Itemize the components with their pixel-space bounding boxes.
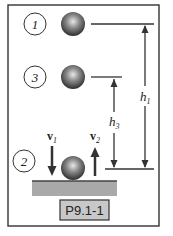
ball-3	[61, 65, 85, 89]
arrow-up-icon	[91, 147, 100, 157]
position-2: 2 v1 v2	[13, 129, 100, 180]
arrowhead-down-icon	[111, 160, 118, 168]
position-label-3: 3	[31, 70, 39, 85]
floor	[32, 181, 117, 196]
v1-label: v1	[47, 129, 57, 145]
position-label-2: 2	[21, 154, 28, 169]
position-1: 1	[24, 12, 154, 36]
arrow-down-icon	[48, 166, 57, 176]
position-label-1: 1	[32, 17, 39, 32]
bouncing-ball-diagram: 1 3 h1 h3 2 v1 v2	[0, 0, 173, 236]
v2-label: v2	[90, 129, 100, 145]
ball-1	[61, 12, 85, 36]
height-h1-dimension: h1	[140, 25, 151, 168]
ball-2	[61, 156, 85, 180]
h3-label: h3	[109, 114, 120, 131]
figure-label: P9.1-1	[65, 203, 103, 218]
arrowhead-down-icon	[142, 160, 149, 168]
position-3: 3	[24, 65, 122, 89]
h1-label: h1	[140, 89, 151, 106]
arrowhead-up-icon	[142, 25, 149, 33]
height-h3-dimension: h3	[109, 79, 120, 168]
arrowhead-up-icon	[111, 79, 118, 87]
